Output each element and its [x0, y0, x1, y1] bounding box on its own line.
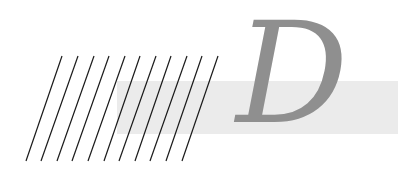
hatch-line: [119, 56, 156, 161]
hatch-line: [88, 56, 125, 161]
hatch-line: [150, 56, 187, 161]
initial-letter: D: [236, 4, 348, 144]
hatch-line: [135, 56, 171, 161]
hatch-line: [41, 56, 78, 161]
decorative-graphic: D: [0, 0, 412, 187]
hatch-line: [57, 56, 94, 161]
hatch-line: [72, 56, 109, 161]
hatch-line: [182, 56, 218, 161]
hatch-line: [26, 56, 62, 161]
hatch-line: [104, 56, 140, 161]
diagonal-hatch-lines: [0, 0, 412, 187]
hatch-line: [166, 56, 202, 161]
